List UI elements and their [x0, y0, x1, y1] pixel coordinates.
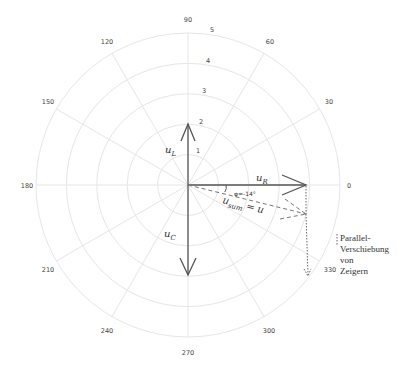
phi-annotation: φ=-14°: [234, 190, 256, 198]
note-line-3: von: [340, 255, 354, 265]
angle-tick-30: 30: [325, 98, 333, 106]
angle-tick-240: 240: [101, 327, 113, 335]
radial-tick-1: 1: [196, 147, 200, 155]
angle-tick-0: 0: [347, 182, 351, 190]
angle-tick-210: 210: [42, 266, 54, 274]
angle-tick-270: 270: [182, 349, 194, 357]
angle-tick-60: 60: [266, 38, 274, 46]
angle-tick-300: 300: [263, 327, 275, 335]
angle-tick-330: 330: [324, 266, 336, 274]
radial-tick-3: 3: [202, 87, 206, 95]
note-line-2: Verschiebung: [340, 244, 389, 254]
angle-tick-150: 150: [42, 98, 54, 106]
parallel-shift-note: Parallel- Verschiebung von Zeigern: [340, 233, 389, 276]
label-u-sum: usum = u: [221, 194, 266, 218]
radial-tick-2: 2: [199, 118, 203, 126]
radial-tick-4: 4: [206, 57, 210, 65]
label-u-L: uL: [165, 144, 176, 158]
phasor-diagram: 0 30 60 90 120 150 180 210 240 270 300 3…: [0, 0, 403, 370]
note-line-4: Zeigern: [340, 266, 368, 276]
angle-tick-120: 120: [101, 38, 113, 46]
phasor-u-C: [180, 185, 196, 275]
note-line-1: Parallel-: [340, 233, 371, 243]
label-u-C: uC: [164, 228, 176, 242]
label-u-R: uR: [256, 172, 268, 186]
angle-tick-180: 180: [21, 182, 33, 190]
parallel-shift-lines: [304, 186, 311, 276]
angle-tick-90: 90: [184, 16, 192, 24]
angle-arc: [225, 185, 227, 192]
radial-ticks: 1 2 3 4 5: [196, 26, 214, 155]
radial-tick-5: 5: [210, 26, 214, 34]
